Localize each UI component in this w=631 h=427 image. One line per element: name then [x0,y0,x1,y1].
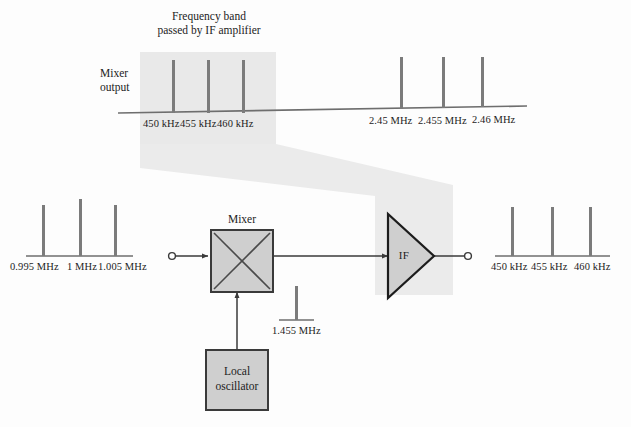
spectrum-stem-0-995mhz [42,205,45,256]
spectrum-stem-450khz [172,60,175,113]
diagram-vector-layer [0,0,631,427]
rf-input-spectrum [26,199,133,256]
mixer-output-label-line1: Mixer [100,67,156,81]
if-output-spectrum [495,207,610,256]
tick-label-1-455mhz: 1.455 MHz [272,325,321,337]
rf-input-terminal[interactable] [169,253,176,260]
tick-label-455khz: 455 kHz [180,118,217,130]
spectrum-stem-2-46mhz [481,57,484,107]
tick-label-1mhz: 1 MHz [67,261,97,273]
tick-label-1-005mhz: 1.005 MHz [98,261,147,273]
tick-label-0-995mhz: 0.995 MHz [10,261,59,273]
tick-label-out-450khz: 450 kHz [491,261,528,273]
local-oscillator-label-line1: Local [206,364,268,379]
mixer-block-label: Mixer [211,213,273,227]
tick-label-2-46mhz: 2.46 MHz [472,114,515,126]
local-oscillator-label: Local oscillator [206,364,268,394]
local-oscillator-label-line2: oscillator [206,379,268,394]
tick-label-out-455khz: 455 kHz [531,261,568,273]
spectrum-stem-out-460khz [589,207,592,256]
spectrum-stem-1-005mhz [114,205,117,256]
spectrum-stem-455khz [207,60,210,113]
tick-label-460khz: 460 kHz [217,118,254,130]
mixer-block[interactable] [211,230,273,292]
spectrum-stem-2-45mhz [400,57,403,109]
local-oscillator-spectrum [279,286,314,320]
tick-label-2-455mhz: 2.455 MHz [418,115,467,127]
tick-label-450khz: 450 kHz [143,118,180,130]
if-output-terminal[interactable] [465,253,472,260]
spectrum-stem-out-455khz [551,207,554,256]
passband-annotation: Frequency band passed by IF amplifier [146,10,272,37]
spectrum-stem-out-450khz [511,207,514,256]
passband-annotation-line2: passed by IF amplifier [146,24,272,38]
tick-label-2-45mhz: 2.45 MHz [369,115,412,127]
mixer-output-label: Mixer output [100,67,156,94]
passband-annotation-line1: Frequency band [146,10,272,24]
if-amplifier-label: IF [389,249,419,262]
mixer-output-label-line2: output [100,81,156,95]
spectrum-stem-1mhz [79,199,82,256]
spectrum-stem-2-455mhz [442,57,445,108]
spectrum-stem-1-455mhz [295,286,298,320]
spectrum-stem-460khz [242,60,245,113]
tick-label-out-460khz: 460 kHz [574,261,611,273]
diagram-canvas: Frequency band passed by IF amplifier Mi… [0,0,631,427]
